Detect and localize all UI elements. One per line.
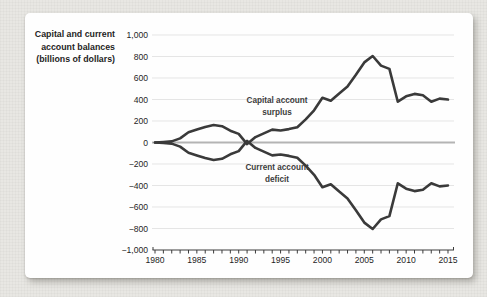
x-tick-label: 2015 — [438, 255, 457, 265]
x-tick-label: 2000 — [313, 255, 332, 265]
y-tick-label: 200 — [134, 116, 149, 126]
current-account-deficit-label: Current account — [245, 163, 309, 172]
account-balances-chart: 1,0008006004002000−200−400−600−800−1,000… — [25, 13, 473, 278]
y-tick-label: 0 — [143, 138, 148, 148]
y-tick-label: 600 — [134, 73, 149, 83]
capital-account-surplus-label: surplus — [262, 108, 292, 117]
x-tick-label: 2005 — [355, 255, 374, 265]
y-tick-label: −200 — [129, 159, 149, 169]
current-account-deficit-label: deficit — [265, 175, 289, 184]
current-account-deficit-line — [155, 141, 448, 229]
x-tick-label: 1990 — [229, 255, 248, 265]
y-tick-label: 800 — [134, 52, 149, 62]
y-tick-label: −400 — [129, 181, 149, 191]
y-tick-label: 400 — [134, 95, 149, 105]
y-tick-label: −800 — [129, 224, 149, 234]
page-background: { "page_background": "#e8e7e3", "panel_b… — [0, 0, 487, 297]
y-tick-label: −600 — [129, 202, 149, 212]
y-tick-label: 1,000 — [126, 30, 148, 40]
y-tick-label: −1,000 — [121, 245, 148, 255]
x-tick-label: 1980 — [145, 255, 164, 265]
x-tick-label: 1985 — [187, 255, 206, 265]
x-tick-label: 2010 — [397, 255, 416, 265]
x-tick-label: 1995 — [271, 255, 290, 265]
capital-account-surplus-label: Capital account — [247, 96, 308, 105]
chart-panel: Capital and current account balances (bi… — [25, 13, 473, 278]
